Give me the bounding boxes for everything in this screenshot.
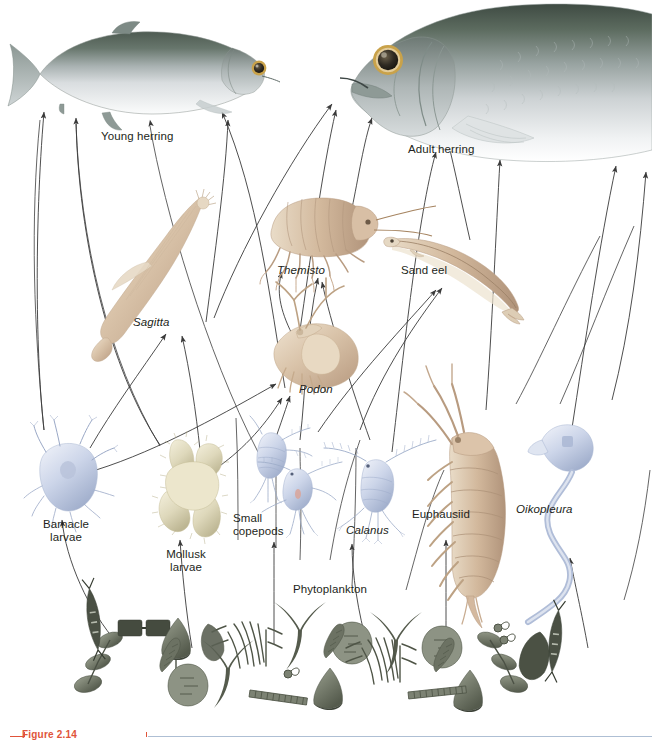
organism-mollusk-larvae — [152, 431, 229, 544]
adult-herring-eye-pupil — [378, 50, 398, 70]
oikopleura-tail — [528, 472, 572, 622]
label-sand-eel: Sand eel — [401, 264, 447, 277]
edge-themisto-to-adult-herring — [352, 118, 372, 208]
label-small-copepods-line2: copepods — [233, 525, 284, 538]
organism-euphausiid — [404, 364, 505, 628]
guide-stroke-9 — [406, 470, 444, 590]
edge-oikopleura-to-adult-herring — [572, 166, 616, 428]
organism-young-herring — [8, 21, 280, 130]
organism-phytoplankton-band — [72, 578, 565, 712]
guide-stroke-10 — [624, 470, 650, 600]
phyto-ladder-1 — [249, 690, 307, 705]
small-copepod-lower-gut — [295, 489, 301, 499]
guide-stroke-1 — [34, 120, 44, 430]
label-euphausiid: Euphausiid — [412, 508, 470, 521]
oikopleura-tail-core — [528, 472, 572, 622]
phyto-rect-chain — [118, 620, 170, 636]
label-phytoplankton: Phytoplankton — [293, 583, 367, 596]
calanus-body — [361, 460, 394, 513]
organism-podon — [274, 278, 358, 394]
figure-caption-number: Figure 2.14 — [22, 729, 77, 740]
sagitta-tail-bulb — [92, 338, 113, 361]
label-sagitta: Sagitta — [133, 316, 170, 329]
organism-barnacle-larvae — [24, 415, 118, 532]
phyto-round-1 — [168, 664, 208, 706]
label-barnacle-larvae-line2: larvae — [50, 531, 82, 544]
phyto-flagellate-1 — [284, 668, 299, 678]
phyto-striate-1 — [82, 578, 105, 661]
calanus-antennae — [324, 440, 436, 462]
organism-sand-eel — [384, 237, 524, 324]
caption-rule — [148, 736, 652, 737]
sand-eel-eye — [390, 239, 394, 243]
edge-podon-to-themisto — [279, 272, 292, 334]
figure-canvas: Young herring Adult herring Sagitta Them… — [0, 0, 652, 744]
label-mollusk-larvae-line1: Mollusk — [166, 548, 206, 561]
euphausiid-antennae — [418, 384, 464, 444]
young-herring-eye-glint — [256, 65, 259, 68]
label-oikopleura: Oikopleura — [516, 503, 573, 516]
edge-calanus-to-sandeel — [360, 288, 442, 430]
euphausiid-eye — [455, 437, 461, 443]
phyto-cone-2 — [314, 668, 343, 710]
label-themisto: Themisto — [277, 264, 325, 277]
phyto-ceratium-1 — [274, 602, 326, 670]
calanus-eye — [366, 464, 370, 468]
label-young-herring: Young herring — [101, 130, 174, 143]
small-copepod-lower-tail — [290, 510, 314, 534]
food-web-arrow-layer — [0, 0, 652, 744]
label-barnacle-larvae-line1: Barnacle — [43, 518, 89, 531]
organism-sagitta — [92, 189, 216, 361]
themisto-head — [352, 206, 379, 240]
barnacle-larvae-nucleus — [60, 461, 76, 479]
caption-tick-right — [146, 732, 147, 737]
edge-calanus-to-adult-herring — [392, 152, 436, 452]
edge-smallcopepods-to-young-herring — [150, 120, 258, 452]
organism-adult-herring — [340, 4, 652, 162]
themisto-eye — [365, 219, 370, 224]
young-herring-eye-pupil — [254, 63, 264, 73]
phyto-flagellate-2 — [494, 622, 509, 632]
phyto-striate-2 — [545, 600, 566, 683]
edge-barnacle-to-young-herring — [37, 112, 44, 430]
adult-herring-eye-glint — [381, 52, 387, 58]
edge-extra-right-to-adult-herring — [612, 172, 646, 400]
sagitta-head — [197, 197, 209, 209]
guide-stroke-7 — [516, 236, 600, 404]
label-podon: Podon — [299, 383, 333, 396]
calanus-antenna-setae — [324, 435, 429, 456]
label-adult-herring: Adult herring — [408, 143, 475, 156]
label-calanus: Calanus — [346, 524, 389, 537]
oikopleura-organ — [562, 436, 573, 447]
organism-oikopleura — [528, 425, 593, 622]
young-herring-anal-fin — [59, 104, 64, 114]
guide-stroke-8 — [560, 226, 634, 404]
organism-small-copepods — [250, 416, 342, 538]
edge-sandeel-to-adult-herring — [448, 142, 470, 240]
small-copepod-upper-tail — [254, 478, 278, 502]
phyto-leaf-1 — [515, 629, 554, 683]
label-mollusk-larvae-line2: larvae — [170, 561, 202, 574]
oikopleura-trunk — [542, 425, 593, 471]
phyto-flagellate-3 — [500, 634, 515, 644]
label-small-copepods-line1: Small — [233, 512, 262, 525]
euphausiid-antennae-thin — [404, 364, 452, 404]
small-copepod-lower-eye — [290, 472, 293, 475]
young-herring-pelvic-fin — [102, 112, 122, 130]
young-herring-tail — [8, 44, 40, 106]
young-herring-mouth — [262, 76, 280, 82]
themisto-antennae — [374, 206, 436, 236]
